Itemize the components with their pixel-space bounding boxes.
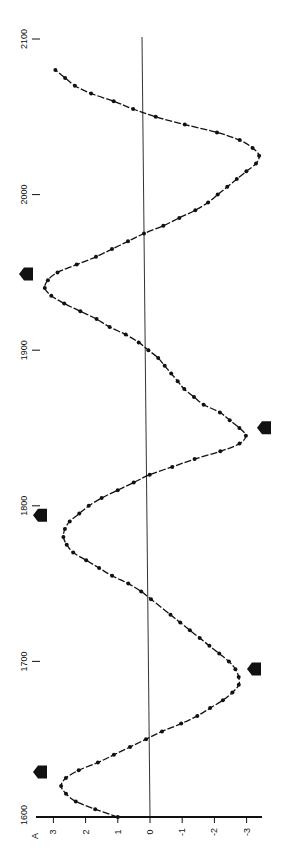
data-point <box>169 613 173 617</box>
data-point <box>137 340 141 344</box>
data-point <box>112 99 116 103</box>
year-tick-label: 1900 <box>19 340 29 360</box>
data-point <box>182 387 186 391</box>
data-point <box>96 761 100 765</box>
data-point <box>73 84 77 88</box>
data-point <box>110 247 114 251</box>
data-point <box>244 169 248 173</box>
data-point <box>65 543 69 547</box>
data-point <box>97 566 101 570</box>
data-point <box>193 208 197 212</box>
data-point <box>126 582 130 586</box>
data-point <box>131 107 135 111</box>
data-point <box>100 496 104 500</box>
data-point <box>61 535 65 539</box>
data-point <box>225 185 229 189</box>
data-point <box>228 418 232 422</box>
data-point <box>170 465 174 469</box>
data-point <box>195 714 199 718</box>
data-point <box>202 403 206 407</box>
data-point <box>206 200 210 204</box>
data-point <box>148 473 152 477</box>
data-point <box>95 317 99 321</box>
data-point <box>192 395 196 399</box>
data-point <box>215 130 219 134</box>
data-point <box>63 76 67 80</box>
data-point <box>68 519 72 523</box>
zero-reference-line <box>142 37 150 817</box>
year-tick-label: 2100 <box>19 29 29 49</box>
data-point <box>163 364 167 368</box>
data-point <box>257 154 261 158</box>
data-point <box>124 333 128 337</box>
year-tick-label: 1600 <box>19 805 29 825</box>
data-point <box>126 239 130 243</box>
data-point <box>146 348 150 352</box>
value-tick-label: 0 <box>145 829 155 834</box>
data-point <box>176 379 180 383</box>
data-point <box>144 737 148 741</box>
data-point <box>193 457 197 461</box>
data-point <box>179 722 183 726</box>
data-point <box>71 551 75 555</box>
cycle-chart: 160017001800190020002100 3210-1-2-3 A <box>0 0 281 861</box>
data-point <box>53 68 57 72</box>
data-point <box>207 644 211 648</box>
data-point <box>237 675 241 679</box>
value-tick-label: 2 <box>81 829 91 834</box>
data-point <box>233 667 237 671</box>
data-point <box>64 776 68 780</box>
year-tick-label: 1800 <box>19 496 29 516</box>
data-point <box>149 597 153 601</box>
value-axis-marker: A <box>30 833 40 839</box>
value-tick-label: -2 <box>209 828 219 836</box>
data-point <box>84 558 88 562</box>
data-point <box>46 278 50 282</box>
data-point <box>74 799 78 803</box>
value-tick-label: 1 <box>113 829 123 834</box>
data-point <box>160 729 164 733</box>
data-point <box>56 270 60 274</box>
data-point <box>254 162 258 166</box>
data-point <box>216 193 220 197</box>
year-axis: 160017001800190020002100 <box>19 29 40 825</box>
data-point <box>169 372 173 376</box>
value-tick-label: -3 <box>242 828 252 836</box>
data-point <box>132 481 136 485</box>
data-point <box>43 286 47 290</box>
data-point <box>87 504 91 508</box>
data-point <box>112 753 116 757</box>
data-point <box>77 768 81 772</box>
data-point <box>227 659 231 663</box>
data-point <box>142 232 146 236</box>
data-point <box>62 302 66 306</box>
data-point <box>237 683 241 687</box>
data-point <box>218 449 222 453</box>
data-point <box>217 652 221 656</box>
data-point <box>63 527 67 531</box>
data-point <box>161 224 165 228</box>
value-tick-label: -1 <box>177 828 187 836</box>
data-point <box>251 146 255 150</box>
data-point <box>59 784 63 788</box>
data-point <box>198 636 202 640</box>
data-point <box>78 309 82 313</box>
data-point <box>128 745 132 749</box>
data-point <box>238 138 242 142</box>
data-point <box>178 621 182 625</box>
data-point <box>89 92 93 96</box>
data-point <box>49 294 53 298</box>
data-point <box>221 698 225 702</box>
year-tick-label: 1700 <box>19 651 29 671</box>
data-point <box>183 123 187 127</box>
data-points <box>43 68 261 819</box>
data-point <box>94 255 98 259</box>
data-point <box>139 589 143 593</box>
data-point <box>75 263 79 267</box>
arrow-icon <box>247 662 261 675</box>
data-point <box>230 691 234 695</box>
data-point <box>77 512 81 516</box>
data-point <box>116 488 120 492</box>
data-point <box>110 574 114 578</box>
data-point <box>238 442 242 446</box>
